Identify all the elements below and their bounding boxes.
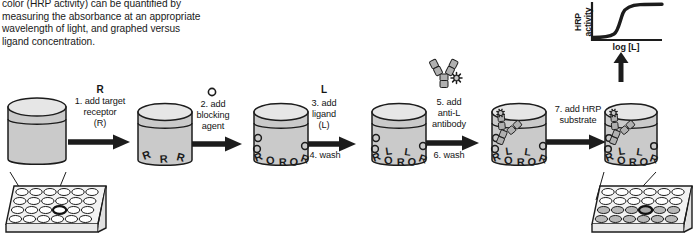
highlighted-well bbox=[639, 206, 652, 214]
chart-y-axis-label: HRP activity bbox=[573, 0, 593, 45]
well-label-O: O bbox=[407, 155, 418, 168]
hrp-activity-chart: HRP activity log [L] bbox=[576, 0, 664, 54]
caption-line: wavelength of light, and graphed versus bbox=[2, 23, 332, 36]
hrp-enzyme-icon bbox=[451, 73, 462, 84]
molecule-icon-blocking-agent bbox=[206, 86, 218, 98]
molecule-label-R: R bbox=[64, 84, 136, 95]
molecule-label-L: L bbox=[292, 84, 356, 95]
highlighted-well bbox=[53, 206, 66, 214]
step-1-text: 1. add target receptor (R) bbox=[60, 96, 140, 129]
arrow-to-chart bbox=[612, 52, 630, 82]
caption-line: ligand concentration. bbox=[2, 36, 332, 49]
plate-start bbox=[2, 182, 106, 238]
plate-end bbox=[588, 182, 692, 238]
caption-line: color (HRP activity) can be quantified b… bbox=[2, 0, 332, 11]
well-ligand: L L R O R O R bbox=[366, 98, 434, 178]
well-blocked: R O R O R bbox=[248, 98, 316, 178]
well-label-R: R bbox=[397, 156, 405, 168]
step-1-line: receptor bbox=[60, 107, 140, 118]
well-antibody: L L R O R O R bbox=[486, 98, 554, 178]
well-label-R: R bbox=[279, 156, 287, 168]
chart-x-axis-label: log [L] bbox=[598, 42, 654, 52]
caption-paragraph: color (HRP activity) can be quantified b… bbox=[2, 0, 332, 48]
chart-sigmoid-curve bbox=[593, 4, 662, 37]
arrow-step-1 bbox=[68, 134, 130, 150]
antibody-hrp-icon bbox=[428, 58, 470, 92]
caption-line: measuring the absorbance at an appropria… bbox=[2, 11, 332, 24]
well-label-R: R bbox=[159, 152, 168, 165]
well-label-R: R bbox=[517, 156, 525, 168]
well-label-O: O bbox=[289, 155, 300, 168]
step-1-line: (R) bbox=[60, 118, 140, 129]
well-label-O: O bbox=[527, 155, 538, 168]
step-1-line: 1. add target bbox=[60, 96, 140, 107]
well-receptor: R R R bbox=[132, 98, 200, 178]
